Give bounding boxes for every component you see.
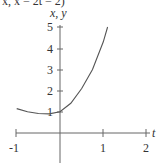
tick-label-neg1: -1 (9, 141, 19, 155)
y-tick-3: 3 (47, 63, 53, 77)
y-axis-label: x, y (49, 6, 67, 20)
tick-label-1: 1 (100, 141, 106, 155)
y-tick-4: 4 (47, 42, 53, 56)
tick-label-2: 2 (143, 141, 149, 155)
y-tick-5: 5 (47, 20, 53, 34)
y-tick-2: 2 (47, 84, 53, 98)
chart: x, x = 2t = 2) -1 1 2 t 1 2 3 4 5 x, y (0, 0, 162, 163)
y-tick-1: 1 (47, 105, 53, 119)
t-axis-label: t (152, 126, 156, 140)
